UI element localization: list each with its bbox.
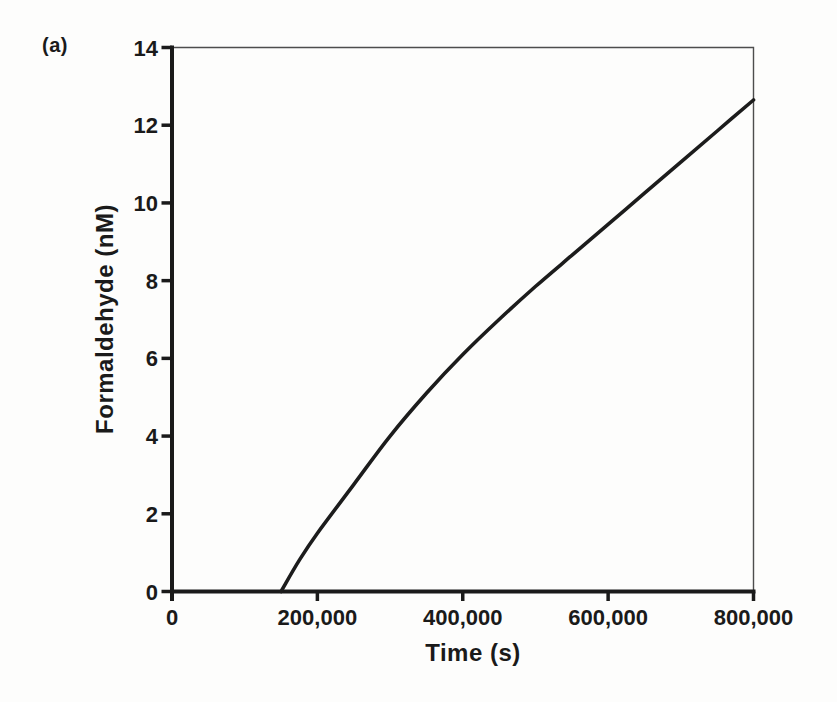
y-tick-label: 6 — [146, 346, 158, 371]
y-tick-label: 12 — [134, 113, 158, 138]
x-axis-title: Time (s) — [425, 639, 521, 666]
x-tick-label: 600,000 — [568, 605, 648, 630]
y-tick-label: 8 — [146, 269, 158, 294]
x-tick-label: 0 — [166, 605, 178, 630]
y-axis-title: Formaldehyde (nM) — [91, 204, 118, 434]
data-curve — [281, 100, 754, 592]
line-chart: 024681012140200,000400,000600,000800,000… — [0, 0, 837, 702]
y-tick-label: 14 — [134, 36, 159, 61]
figure: (a) 024681012140200,000400,000600,000800… — [0, 0, 837, 702]
x-tick-label: 400,000 — [423, 605, 503, 630]
x-tick-label: 800,000 — [714, 605, 794, 630]
y-tick-label: 10 — [134, 191, 158, 216]
x-tick-label: 200,000 — [278, 605, 358, 630]
y-tick-label: 2 — [146, 502, 158, 527]
plot-frame — [172, 48, 754, 592]
y-tick-label: 0 — [146, 580, 158, 605]
y-tick-label: 4 — [146, 424, 159, 449]
